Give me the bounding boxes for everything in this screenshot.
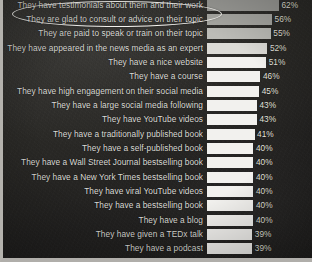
bar bbox=[207, 129, 255, 140]
bar-row: They have a bestselling book40% bbox=[3, 199, 312, 212]
bar-row: They have a blog40% bbox=[3, 214, 312, 227]
bar-value-label: 40% bbox=[256, 185, 273, 198]
bar-value-label: 52% bbox=[270, 42, 287, 55]
bar-category-label: They have a large social media following bbox=[5, 99, 203, 112]
bar-category-label: They have high engagement on their socia… bbox=[5, 85, 203, 98]
bar-row: They have given a TEDx talk39% bbox=[3, 228, 312, 241]
bar-track: 45% bbox=[207, 85, 312, 98]
bar bbox=[207, 157, 253, 168]
bar-row: They are paid to speak or train on their… bbox=[3, 27, 312, 40]
bar-value-label: 39% bbox=[255, 228, 272, 241]
bar bbox=[207, 143, 253, 154]
bar bbox=[207, 229, 252, 240]
bar-row: They have YouTube videos43% bbox=[3, 113, 312, 126]
bar bbox=[207, 28, 271, 39]
bar-row: They have a self-published book40% bbox=[3, 142, 312, 155]
bar-row: They are glad to consult or advice on th… bbox=[3, 13, 312, 26]
bar bbox=[207, 243, 252, 254]
bar bbox=[207, 57, 266, 68]
bar-category-label: They are paid to speak or train on their… bbox=[5, 27, 203, 40]
bar-category-label: They have a course bbox=[5, 70, 203, 83]
bar bbox=[207, 100, 257, 111]
slide-canvas: They have testimonials about them and th… bbox=[0, 0, 312, 262]
bar-value-label: 56% bbox=[275, 13, 292, 26]
bar-track: 51% bbox=[207, 56, 312, 69]
bar bbox=[207, 14, 272, 25]
bar-value-label: 40% bbox=[256, 156, 273, 169]
bar-category-label: They have a traditionally published book bbox=[5, 128, 203, 141]
bar-row: They have a Wall Street Journal bestsell… bbox=[3, 156, 312, 169]
horizontal-bar-chart: They have testimonials about them and th… bbox=[3, 0, 312, 258]
bar-row: They have a traditionally published book… bbox=[3, 128, 312, 141]
bar-track: 40% bbox=[207, 171, 312, 184]
bar bbox=[207, 0, 279, 11]
bar-category-label: They have given a TEDx talk bbox=[5, 228, 203, 241]
bar-value-label: 41% bbox=[257, 128, 274, 141]
bar-track: 39% bbox=[207, 228, 312, 241]
bar-track: 52% bbox=[207, 42, 312, 55]
bar bbox=[207, 215, 253, 226]
bar bbox=[207, 71, 260, 82]
bar-category-label: They have a bestselling book bbox=[5, 199, 203, 212]
bar bbox=[207, 186, 253, 197]
bar-category-label: They are glad to consult or advice on th… bbox=[5, 13, 203, 26]
bar-value-label: 40% bbox=[256, 142, 273, 155]
bar-value-label: 46% bbox=[263, 70, 280, 83]
bar-track: 55% bbox=[207, 27, 312, 40]
bar-value-label: 43% bbox=[259, 113, 276, 126]
bar-value-label: 43% bbox=[259, 99, 276, 112]
bar-value-label: 39% bbox=[255, 242, 272, 255]
bar-row: They have a large social media following… bbox=[3, 99, 312, 112]
bar-value-label: 40% bbox=[256, 171, 273, 184]
bar bbox=[207, 86, 259, 97]
bar-track: 40% bbox=[207, 199, 312, 212]
bar-row: They have appeared in the news media as … bbox=[3, 42, 312, 55]
bar-category-label: They have a Wall Street Journal bestsell… bbox=[5, 156, 203, 169]
bar-row: They have a course46% bbox=[3, 70, 312, 83]
bar-row: They have a nice website51% bbox=[3, 56, 312, 69]
bar bbox=[207, 114, 257, 125]
bar-category-label: They have a blog bbox=[5, 214, 203, 227]
bar-category-label: They have a nice website bbox=[5, 56, 203, 69]
bar-value-label: 62% bbox=[282, 0, 299, 12]
bar-value-label: 40% bbox=[256, 214, 273, 227]
bar-category-label: They have testimonials about them and th… bbox=[5, 0, 203, 12]
bar-track: 39% bbox=[207, 242, 312, 255]
bar-value-label: 40% bbox=[256, 199, 273, 212]
bar-track: 40% bbox=[207, 185, 312, 198]
bar-track: 40% bbox=[207, 142, 312, 155]
bar-track: 43% bbox=[207, 99, 312, 112]
bar bbox=[207, 172, 253, 183]
bar-track: 40% bbox=[207, 156, 312, 169]
bar-value-label: 51% bbox=[269, 56, 286, 69]
bar-track: 43% bbox=[207, 113, 312, 126]
bar-track: 46% bbox=[207, 70, 312, 83]
bar bbox=[207, 43, 267, 54]
bar-category-label: They have appeared in the news media as … bbox=[5, 42, 203, 55]
bar-category-label: They have a podcast bbox=[5, 242, 203, 255]
bar-track: 40% bbox=[207, 214, 312, 227]
bar-category-label: They have YouTube videos bbox=[5, 113, 203, 126]
bar-category-label: They have a self-published book bbox=[5, 142, 203, 155]
bar-track: 41% bbox=[207, 128, 312, 141]
bar-row: They have viral YouTube videos40% bbox=[3, 185, 312, 198]
bar-track: 56% bbox=[207, 13, 312, 26]
bar bbox=[207, 200, 253, 211]
bar-value-label: 55% bbox=[273, 27, 290, 40]
bar-track: 62% bbox=[207, 0, 312, 12]
bar-category-label: They have a New York Times bestselling b… bbox=[5, 171, 203, 184]
bar-value-label: 45% bbox=[262, 85, 279, 98]
bar-row: They have a New York Times bestselling b… bbox=[3, 171, 312, 184]
bar-row: They have a podcast39% bbox=[3, 242, 312, 255]
bar-row: They have high engagement on their socia… bbox=[3, 85, 312, 98]
bar-row: They have testimonials about them and th… bbox=[3, 0, 312, 12]
bar-category-label: They have viral YouTube videos bbox=[5, 185, 203, 198]
